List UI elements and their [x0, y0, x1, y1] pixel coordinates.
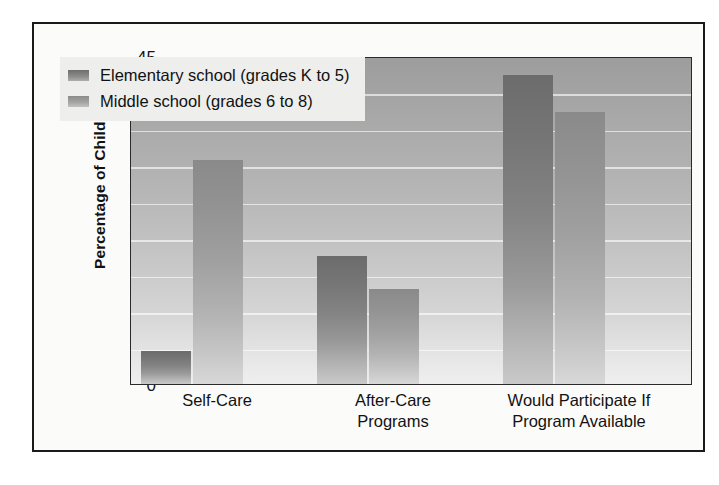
bar	[193, 160, 243, 384]
x-axis-category-labels: Self-CareAfter-CareProgramsWould Partici…	[130, 390, 692, 448]
bar	[503, 75, 553, 384]
legend-item: Elementary school (grades K to 5)	[68, 64, 349, 87]
legend-item: Middle school (grades 6 to 8)	[68, 90, 349, 113]
x-axis-category-line: After-Care	[293, 390, 493, 411]
chart-legend: Elementary school (grades K to 5)Middle …	[60, 57, 365, 121]
x-axis-category-label: Would Participate IfProgram Available	[479, 390, 679, 432]
figure-frame: Percentage of Children 45403530252015105…	[32, 22, 705, 452]
x-axis-category-line: Program Available	[479, 411, 679, 432]
legend-label: Elementary school (grades K to 5)	[100, 67, 349, 84]
bar	[555, 112, 605, 384]
x-axis-category-label: After-CarePrograms	[293, 390, 493, 432]
bar	[141, 351, 191, 384]
x-axis-category-line: Would Participate If	[479, 390, 679, 411]
x-axis-category-line: Programs	[293, 411, 493, 432]
bar	[369, 289, 419, 384]
legend-label: Middle school (grades 6 to 8)	[100, 93, 313, 110]
legend-swatch-icon	[68, 96, 89, 107]
x-axis-category-label: Self-Care	[117, 390, 317, 411]
legend-swatch-icon	[68, 70, 89, 81]
bar	[317, 256, 367, 384]
bar-group	[503, 58, 605, 384]
x-axis-category-line: Self-Care	[117, 390, 317, 411]
